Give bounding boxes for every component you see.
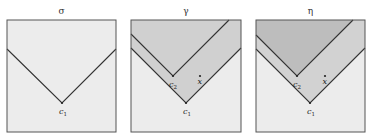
label-x: x: [198, 77, 203, 86]
panel-sigma: σ c1: [7, 6, 116, 132]
diagram-canvas: σ c1 γ c1 c2 x η c1 c2 x: [0, 0, 373, 140]
label-x: x: [323, 77, 328, 86]
panel-gamma: γ c1 c2 x: [131, 6, 241, 132]
vertex-c2: [296, 75, 298, 77]
vertex-c1: [185, 102, 187, 104]
panel-title: γ: [183, 6, 188, 16]
panel-title: η: [308, 6, 313, 16]
vertex-c1: [61, 102, 63, 104]
vertex-c2: [172, 75, 174, 77]
vertex-c1: [309, 102, 311, 104]
panel-eta: η c1 c2 x: [256, 6, 365, 132]
panel-title: σ: [58, 6, 64, 16]
